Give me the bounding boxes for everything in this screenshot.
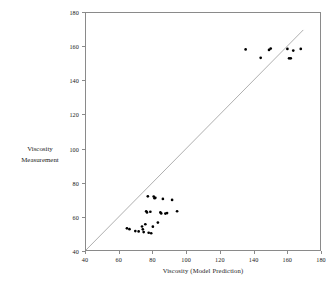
data-point xyxy=(152,225,155,228)
data-point xyxy=(162,198,165,201)
data-point xyxy=(142,231,145,234)
data-point xyxy=(269,47,272,50)
data-point xyxy=(171,199,174,202)
x-axis-tick-mark xyxy=(321,251,322,254)
data-point xyxy=(146,211,149,214)
data-point xyxy=(176,210,179,213)
identity-reference-line xyxy=(86,30,303,250)
x-axis-tick-label: 80 xyxy=(149,256,155,263)
x-axis-tick-mark xyxy=(287,251,288,254)
x-axis-title: Viscosity (Model Prediction) xyxy=(85,267,321,274)
plot-canvas xyxy=(86,13,320,250)
data-point xyxy=(244,48,247,51)
data-point xyxy=(157,221,160,224)
data-point xyxy=(137,230,140,233)
x-axis-tick-label: 40 xyxy=(82,256,88,263)
y-axis-tick-label: 40 xyxy=(51,248,79,255)
data-points-group xyxy=(126,47,303,234)
data-point xyxy=(141,228,144,231)
x-axis-tick-label: 180 xyxy=(316,256,326,263)
data-point xyxy=(289,57,292,60)
x-axis-tick-mark xyxy=(85,251,86,254)
x-axis-tick-mark xyxy=(186,251,187,254)
y-axis-tick-label: 60 xyxy=(51,213,79,220)
data-point xyxy=(299,48,302,51)
data-point xyxy=(126,227,129,230)
y-axis-title-line2: Measurement xyxy=(6,154,74,165)
y-axis-tick-label: 80 xyxy=(51,179,79,186)
x-axis-tick-mark xyxy=(152,251,153,254)
data-point xyxy=(286,48,289,51)
data-point xyxy=(149,210,152,213)
x-axis-tick-label: 120 xyxy=(215,256,225,263)
data-point xyxy=(150,232,153,235)
y-axis-tick-label: 120 xyxy=(51,111,79,118)
x-axis-tick-mark xyxy=(254,251,255,254)
data-point xyxy=(166,212,169,215)
y-axis-tick-label: 140 xyxy=(51,77,79,84)
y-axis-tick-label: 160 xyxy=(51,43,79,50)
x-axis-tick-label: 100 xyxy=(181,256,191,263)
y-axis-tick-label: 100 xyxy=(51,145,79,152)
x-axis-tick-mark xyxy=(220,251,221,254)
data-point xyxy=(160,212,163,215)
scatter-chart: Viscosity Measurement 406080100120140160… xyxy=(0,0,333,289)
y-axis-tick-label: 180 xyxy=(51,9,79,16)
data-point xyxy=(259,57,262,60)
data-point xyxy=(154,197,157,200)
data-point xyxy=(134,230,137,233)
data-point xyxy=(147,195,150,198)
plot-area xyxy=(85,12,321,251)
reference-line-group xyxy=(86,30,303,250)
data-point xyxy=(141,225,144,228)
data-point xyxy=(147,231,150,234)
x-axis-tick-mark xyxy=(119,251,120,254)
data-point xyxy=(128,228,131,231)
x-axis-tick-label: 160 xyxy=(282,256,292,263)
data-point xyxy=(292,49,295,52)
x-axis-tick-label: 140 xyxy=(249,256,259,263)
x-axis-tick-label: 60 xyxy=(116,256,122,263)
data-point xyxy=(144,223,147,226)
